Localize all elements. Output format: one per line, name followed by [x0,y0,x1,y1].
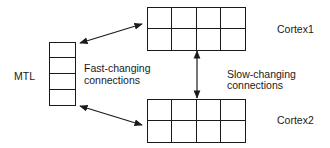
fast-arrow-mtl-cortex2-icon [80,106,142,125]
connection-arrows [0,0,330,148]
fast-arrow-mtl-cortex1-icon [80,24,142,43]
diagram-canvas: MTL Cortex1 Cortex2 Fast-changing connec… [0,0,330,148]
